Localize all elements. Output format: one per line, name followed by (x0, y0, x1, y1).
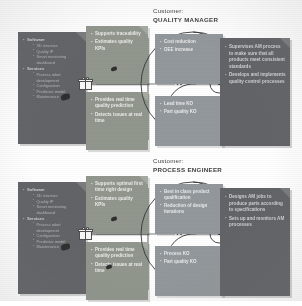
list-item: Part quality KO (160, 259, 220, 265)
cursor-pointer-icon (111, 66, 117, 71)
gain-creators-card[interactable]: Supports traceability Estimates quality … (86, 26, 148, 84)
value-map-list: Software 3D structure Quality IP Smart m… (18, 32, 86, 100)
cursor-pointer-icon (111, 216, 117, 221)
group-title: Services (27, 216, 44, 221)
list-item: Supports traceability (91, 31, 144, 37)
group-items: 3D structure Quality IP Smart monitoring… (27, 43, 83, 65)
list-item: Estimates quality KPIs (91, 196, 144, 209)
customer-gains-card[interactable]: Cost reduction OEE increase (155, 34, 223, 84)
value-map-list: Software 3D structure Quality IP Smart m… (18, 182, 86, 250)
gain-creators-card[interactable]: Supports optimal first time right design… (86, 176, 148, 234)
gain-creators-list: Supports optimal first time right design… (86, 176, 148, 209)
list-item: Designs AM jobs to produce parts accordi… (225, 194, 286, 214)
list-item: Best in class product qualification (160, 189, 220, 201)
list-item: Develops and implements quality control … (225, 72, 286, 85)
pain-relievers-card[interactable]: Provides real time quality prediction De… (86, 92, 148, 150)
customer-profile-circle: Cost reduction OEE increase Lead time KO… (155, 34, 223, 146)
list-item: Process robot development (33, 72, 83, 83)
group-title: Software (27, 187, 45, 192)
list-item: Maintenance (33, 244, 83, 250)
value-map-group: Software 3D structure Quality IP Smart m… (23, 37, 83, 65)
group-items: Process robot development Configuration … (27, 222, 83, 250)
list-item: Smart monitoring dashboard (33, 204, 83, 215)
list-item: Cost reduction (160, 39, 220, 45)
pain-relievers-card[interactable]: Provides real time quality prediction De… (86, 242, 148, 300)
customer-label: Customer: (153, 6, 218, 15)
list-item: Lead time KO (160, 101, 220, 107)
customer-jobs-panel[interactable]: Designs AM jobs to produce parts accordi… (220, 188, 290, 296)
list-item: Smart monitoring dashboard (33, 54, 83, 65)
customer-profile-circle: Best in class product qualification Redu… (155, 184, 223, 296)
customer-pains-card[interactable]: Process KO Part quality KO (155, 246, 223, 296)
list-item: Process KO (160, 251, 220, 257)
list-item: Provides real time quality prediction (91, 247, 144, 260)
group-title: Software (27, 37, 45, 42)
list-item: Provides real time quality prediction (91, 97, 144, 110)
customer-jobs-panel[interactable]: Supervises AM process to make sure that … (220, 38, 290, 146)
pain-relievers-list: Provides real time quality prediction De… (86, 92, 148, 125)
list-item: Estimates quality KPIs (91, 39, 144, 52)
list-item: OEE increase (160, 47, 220, 53)
value-map-group: Services Process robot development Confi… (23, 216, 83, 250)
gift-ribbon (85, 229, 87, 240)
gift-icon (79, 77, 92, 90)
list-item: Detects issues at real time (91, 112, 144, 125)
value-map-group: Services Process robot development Confi… (23, 66, 83, 100)
pain-relievers-list: Provides real time quality prediction De… (86, 242, 148, 275)
value-map-group: Software 3D structure Quality IP Smart m… (23, 187, 83, 215)
list-item: Part quality KO (160, 109, 220, 115)
group-items: Process robot development Configuration … (27, 72, 83, 100)
half-quality-manager: Customer: QUALITY MANAGER Software 3D st… (0, 0, 302, 150)
list-item: Process robot development (33, 222, 83, 233)
customer-gains-list: Cost reduction OEE increase (155, 34, 223, 53)
value-map-panel[interactable]: Software 3D structure Quality IP Smart m… (18, 182, 86, 294)
list-item: Supervises AM process to make sure that … (225, 44, 286, 70)
list-item: Supports optimal first time right design (91, 181, 144, 194)
customer-label: Customer: (153, 156, 222, 165)
list-item: Reduction of design iterations (160, 203, 220, 215)
customer-pains-list: Lead time KO Part quality KO (155, 96, 223, 115)
customer-pains-card[interactable]: Lead time KO Part quality KO (155, 96, 223, 146)
gift-icon (79, 227, 92, 240)
value-map-panel[interactable]: Software 3D structure Quality IP Smart m… (18, 32, 86, 144)
customer-pains-list: Process KO Part quality KO (155, 246, 223, 265)
half-process-engineer: Customer: PROCESS ENGINEER Software 3D s… (0, 150, 302, 300)
group-items: 3D structure Quality IP Smart monitoring… (27, 193, 83, 215)
group-title: Services (27, 66, 44, 71)
customer-gains-card[interactable]: Best in class product qualification Redu… (155, 184, 223, 234)
gift-ribbon (85, 79, 87, 90)
list-item: Maintenance (33, 94, 83, 100)
list-item: Detects issues at real time (91, 262, 144, 275)
customer-gains-list: Best in class product qualification Redu… (155, 184, 223, 215)
customer-jobs-list: Supervises AM process to make sure that … (220, 38, 290, 86)
list-item: Sets up and monitors AM processes (225, 216, 286, 229)
customer-jobs-list: Designs AM jobs to produce parts accordi… (220, 188, 290, 229)
